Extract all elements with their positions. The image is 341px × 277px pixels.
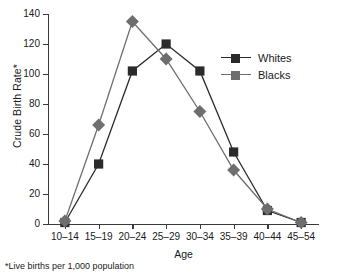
data-point-whites — [195, 66, 204, 75]
birth-rate-chart: Crude Birth Rate* 020406080100120140 10–… — [0, 0, 341, 277]
legend-item-blacks[interactable]: Blacks — [221, 66, 292, 83]
legend-marker-icon — [221, 70, 251, 80]
data-point-blacks — [193, 105, 206, 118]
x-axis-title: Age — [48, 248, 319, 260]
x-tick-label: 45–54 — [274, 231, 328, 242]
y-tick-label: 60 — [6, 129, 40, 139]
x-tick — [166, 224, 167, 229]
data-point-blacks — [92, 118, 105, 131]
y-tick-label: 80 — [6, 99, 40, 109]
chart-footnote: *Live births per 1,000 population — [5, 261, 134, 271]
y-tick-label: 20 — [6, 189, 40, 199]
y-tick — [43, 224, 48, 225]
y-tick-label: 140 — [6, 9, 40, 19]
y-tick-label: 40 — [6, 159, 40, 169]
y-tick-label: 100 — [6, 69, 40, 79]
x-axis-line — [48, 224, 319, 225]
data-point-whites — [229, 147, 238, 156]
legend-label: Blacks — [258, 69, 290, 81]
x-tick — [132, 224, 133, 229]
x-tick — [234, 224, 235, 229]
data-point-whites — [162, 39, 171, 48]
y-tick-label: 0 — [6, 219, 40, 229]
plot-area: 020406080100120140 10–1415–1920–2425–293… — [48, 14, 318, 224]
data-point-whites — [128, 66, 137, 75]
chart-legend: WhitesBlacks — [221, 49, 292, 83]
data-point-whites — [94, 159, 103, 168]
x-tick — [267, 224, 268, 229]
legend-label: Whites — [258, 52, 292, 64]
x-tick — [99, 224, 100, 229]
legend-item-whites[interactable]: Whites — [221, 49, 292, 66]
legend-marker-icon — [221, 53, 251, 63]
y-tick-label: 120 — [6, 39, 40, 49]
series-layer — [48, 14, 318, 224]
x-tick — [200, 224, 201, 229]
